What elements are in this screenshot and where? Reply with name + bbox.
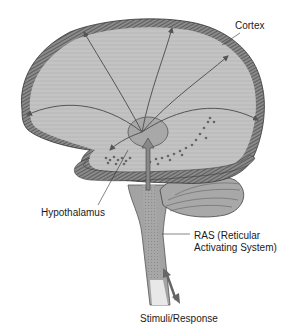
brain-diagram xyxy=(0,0,295,330)
ras-label-line2: Activating System) xyxy=(194,242,277,254)
ras-label: RAS (Reticular Activating System) xyxy=(194,230,277,254)
stimuli-response-label: Stimuli/Response xyxy=(140,313,218,325)
cortex-inner xyxy=(30,27,256,175)
hypothalamus-label: Hypothalamus xyxy=(41,207,105,219)
ras-label-line1: RAS (Reticular xyxy=(194,230,277,242)
cortex-label: Cortex xyxy=(235,20,264,32)
